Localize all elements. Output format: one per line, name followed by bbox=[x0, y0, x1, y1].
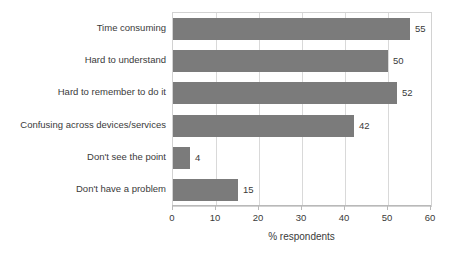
x-tick-mark bbox=[430, 206, 431, 210]
category-label: Hard to remember to do it bbox=[0, 86, 166, 97]
category-label: Don't see the point bbox=[0, 151, 166, 162]
bar bbox=[173, 179, 238, 201]
bar-value-label: 42 bbox=[359, 120, 370, 131]
x-tick-label: 60 bbox=[410, 212, 450, 224]
x-tick-label: 10 bbox=[195, 212, 235, 224]
x-tick-label: 50 bbox=[367, 212, 407, 224]
x-tick-label: 0 bbox=[152, 212, 192, 224]
bar-value-label: 50 bbox=[393, 55, 404, 66]
bar-value-label: 4 bbox=[195, 152, 200, 163]
category-label: Confusing across devices/services bbox=[0, 119, 166, 130]
category-axis-labels: Time consumingHard to understandHard to … bbox=[0, 12, 166, 205]
x-tick-mark bbox=[387, 206, 388, 210]
category-label: Hard to understand bbox=[0, 54, 166, 65]
x-tick-mark bbox=[215, 206, 216, 210]
category-label: Don't have a problem bbox=[0, 183, 166, 194]
x-tick-mark bbox=[344, 206, 345, 210]
x-tick-label: 20 bbox=[238, 212, 278, 224]
x-axis-title: % respondents bbox=[172, 231, 431, 242]
x-tick-mark bbox=[172, 206, 173, 210]
plot-area: 55505242415 bbox=[172, 12, 432, 207]
bar-value-label: 55 bbox=[415, 23, 426, 34]
bar bbox=[173, 50, 388, 72]
category-label: Time consuming bbox=[0, 22, 166, 33]
bar bbox=[173, 18, 410, 40]
bar-chart: Time consumingHard to understandHard to … bbox=[0, 0, 458, 261]
x-tick-label: 30 bbox=[281, 212, 321, 224]
bar bbox=[173, 82, 397, 104]
x-tick-label: 40 bbox=[324, 212, 364, 224]
bar bbox=[173, 115, 354, 137]
bar-value-label: 52 bbox=[402, 87, 413, 98]
bar-value-label: 15 bbox=[243, 184, 254, 195]
x-tick-mark bbox=[258, 206, 259, 210]
bar bbox=[173, 147, 190, 169]
x-tick-mark bbox=[301, 206, 302, 210]
bar-series: 55505242415 bbox=[173, 13, 431, 206]
